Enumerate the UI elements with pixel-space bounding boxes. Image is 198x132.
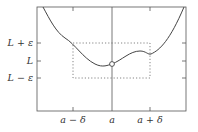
limit-diagram: L + ε L L − ε a − δ a a + δ <box>0 0 198 132</box>
function-curve <box>43 7 184 66</box>
label-a-plus-delta: a + δ <box>137 114 163 125</box>
epsilon-delta-box <box>73 43 150 78</box>
label-a: a <box>109 114 115 125</box>
label-L-plus-epsilon: L + ε <box>7 37 33 48</box>
open-circle-point <box>110 62 115 67</box>
plot-frame <box>37 7 186 111</box>
label-L-minus-epsilon: L − ε <box>7 72 33 83</box>
label-a-minus-delta: a − δ <box>60 114 86 125</box>
label-L: L <box>26 55 33 66</box>
